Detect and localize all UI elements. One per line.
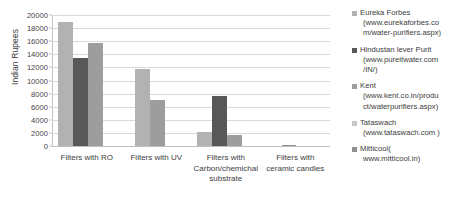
- y-axis-tick-label: 20000: [27, 11, 48, 20]
- y-axis-tick-mark: [49, 67, 52, 68]
- chart-screenshot: Indian Rupees 02000400060008000100001200…: [0, 0, 453, 202]
- bar: [212, 96, 227, 146]
- legend-series-url: (www.tataswach.com ): [360, 128, 440, 138]
- x-axis-tick-label: Filters with ceramic candles: [263, 153, 329, 174]
- y-axis-tick-label: 6000: [31, 102, 48, 111]
- x-axis-tick-label: Filters with UV: [124, 153, 190, 164]
- legend-swatch-icon: [352, 11, 357, 16]
- legend-series-url: (www.pureitwater.com: [360, 55, 438, 65]
- legend-series-url: (www.kent.co.in/produ: [360, 91, 439, 101]
- y-axis-tick-mark: [49, 132, 52, 133]
- legend-item[interactable]: Hindustan lever Purit(www.pureitwater.co…: [352, 45, 453, 76]
- y-axis-tick-mark: [49, 93, 52, 94]
- y-axis-tick-label: 16000: [27, 37, 48, 46]
- y-axis-tick-mark: [49, 80, 52, 81]
- legend-series-url: www.mitticool.in): [360, 154, 420, 164]
- bar: [135, 69, 150, 146]
- gridline: [52, 146, 330, 147]
- legend-item[interactable]: Mitticool(www.mitticool.in): [352, 144, 453, 164]
- y-axis-tick-label: 12000: [27, 63, 48, 72]
- gridline: [52, 15, 330, 16]
- legend-swatch-icon: [352, 147, 357, 152]
- legend-series-name: Kent: [360, 81, 439, 91]
- legend-label: Eureka Forbes(www.eurekaforbes.com/water…: [360, 8, 441, 39]
- legend-series-url: /IN/): [360, 65, 438, 75]
- legend-series-name: Hindustan lever Purit: [360, 45, 438, 55]
- x-axis-tick-label: Filters with Carbon/chemichal substrate: [193, 153, 259, 185]
- y-axis-tick-mark: [49, 54, 52, 55]
- legend-swatch-icon: [352, 84, 357, 89]
- legend-swatch-icon: [352, 48, 357, 53]
- bar: [73, 58, 88, 146]
- y-axis-title: Indian Rupees: [10, 2, 20, 112]
- bar: [282, 145, 297, 147]
- legend-series-url: (www.eurekaforbes.co: [360, 18, 441, 28]
- y-axis-tick-mark: [49, 15, 52, 16]
- y-axis-tick-label: 14000: [27, 50, 48, 59]
- legend-swatch-icon: [352, 121, 357, 126]
- legend-item[interactable]: Eureka Forbes(www.eurekaforbes.com/water…: [352, 8, 453, 39]
- bar: [227, 135, 242, 146]
- y-axis-tick-mark: [49, 119, 52, 120]
- legend-label: Tataswach(www.tataswach.com ): [360, 118, 440, 138]
- bar: [58, 22, 73, 146]
- legend-item[interactable]: Kent(www.kent.co.in/product/waterpurifie…: [352, 81, 453, 112]
- legend-series-url: ct/waterpurifiers.aspx): [360, 102, 439, 112]
- y-axis-tick-label: 4000: [31, 115, 48, 124]
- legend-item[interactable]: Tataswach(www.tataswach.com ): [352, 118, 453, 138]
- plot-area: 0200040006000800010000120001400016000180…: [52, 15, 330, 146]
- legend-series-name: Eureka Forbes: [360, 8, 441, 18]
- legend-series-name: Tataswach: [360, 118, 440, 128]
- y-axis-tick-label: 18000: [27, 24, 48, 33]
- legend-label: Mitticool(www.mitticool.in): [360, 144, 420, 164]
- y-axis-tick-mark: [49, 28, 52, 29]
- bar: [88, 43, 103, 146]
- gridline: [52, 28, 330, 29]
- y-axis-tick-label: 10000: [27, 76, 48, 85]
- y-axis-tick-label: 8000: [31, 89, 48, 98]
- bar: [197, 132, 212, 146]
- x-axis-tick-label: Filters with RO: [54, 153, 120, 164]
- legend-label: Kent(www.kent.co.in/product/waterpurifie…: [360, 81, 439, 112]
- y-axis-tick-mark: [49, 106, 52, 107]
- bar-chart: Indian Rupees 02000400060008000100001200…: [0, 0, 340, 202]
- y-axis-tick-label: 2000: [31, 128, 48, 137]
- bar: [150, 100, 165, 146]
- y-axis-tick-mark: [49, 146, 52, 147]
- legend-series-name: Mitticool(: [360, 144, 420, 154]
- chart-legend: Eureka Forbes(www.eurekaforbes.com/water…: [352, 8, 453, 198]
- y-axis-tick-mark: [49, 41, 52, 42]
- y-axis-tick-label: 0: [44, 142, 48, 151]
- legend-series-url: m/water-purifiers.aspx): [360, 28, 441, 38]
- legend-label: Hindustan lever Purit(www.pureitwater.co…: [360, 45, 438, 76]
